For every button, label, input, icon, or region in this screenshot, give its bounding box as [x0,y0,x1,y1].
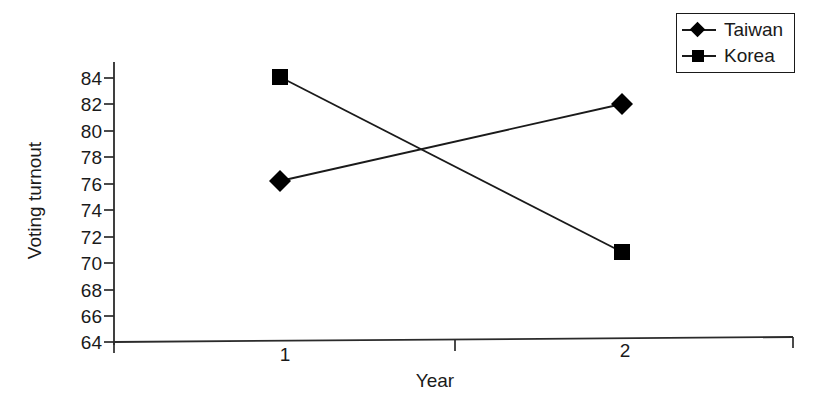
x-tick-label: 1 [265,345,305,364]
y-axis-title: Voting turnout [24,121,45,281]
y-axis-ticks [104,78,114,342]
y-tick-label: 66 [56,307,102,326]
legend-label-korea: Korea [716,46,775,66]
chart-legend: Taiwan Korea [676,13,795,73]
diamond-marker-icon [682,20,716,40]
legend-label-taiwan: Taiwan [716,20,783,40]
series-taiwan-point-2 [611,93,633,115]
series-korea-point-1 [272,69,288,85]
y-tick-label: 74 [56,201,102,220]
x-axis-line [114,337,793,342]
series-taiwan-point-1 [269,170,291,192]
x-axis-title: Year [375,370,495,391]
legend-item-taiwan: Taiwan [677,17,794,43]
y-tick-label: 80 [56,122,102,141]
legend-item-korea: Korea [677,43,794,69]
y-tick-label: 78 [56,148,102,167]
y-tick-label: 76 [56,175,102,194]
y-tick-label: 84 [56,69,102,88]
series-korea-point-2 [614,244,630,260]
y-tick-label: 70 [56,254,102,273]
series-korea-line [280,77,622,252]
y-tick-label: 68 [56,281,102,300]
chart-figure: 84 82 80 78 76 74 72 70 68 66 64 1 2 Yea… [0,0,829,412]
x-tick-label: 2 [605,341,645,360]
square-marker-icon [682,46,716,66]
series-taiwan [269,93,633,192]
series-taiwan-line [280,104,622,181]
y-tick-label: 64 [56,333,102,352]
y-tick-label: 72 [56,228,102,247]
y-tick-label: 82 [56,95,102,114]
series-korea [272,69,630,260]
